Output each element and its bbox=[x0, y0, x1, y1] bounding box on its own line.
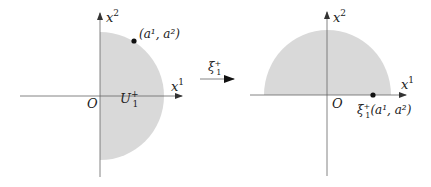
region-image bbox=[264, 30, 391, 95]
right-panel: x2 x1 O ξ+1(a¹, a²) bbox=[250, 8, 414, 176]
right-origin-label: O bbox=[332, 96, 343, 111]
point-a-label: (a¹, a²) bbox=[139, 27, 180, 41]
point-a bbox=[131, 38, 136, 43]
left-y-axis-label: x2 bbox=[106, 8, 119, 25]
left-x-axis-label: x1 bbox=[171, 77, 184, 94]
right-y-axis-label: x2 bbox=[333, 8, 346, 25]
diagram-canvas: x2 x1 O U+1 (a¹, a²) ξ+1 x2 x1 O ξ+1(a¹,… bbox=[0, 0, 431, 187]
map-arrow-label: ξ+1 bbox=[208, 59, 221, 77]
left-origin-label: O bbox=[87, 96, 98, 111]
right-x-axis-label: x1 bbox=[401, 75, 414, 92]
map-arrow: ξ+1 bbox=[200, 59, 234, 79]
left-panel: x2 x1 O U+1 (a¹, a²) bbox=[20, 8, 184, 177]
point-image bbox=[370, 92, 375, 97]
point-image-label: ξ+1(a¹, a²) bbox=[357, 102, 412, 120]
